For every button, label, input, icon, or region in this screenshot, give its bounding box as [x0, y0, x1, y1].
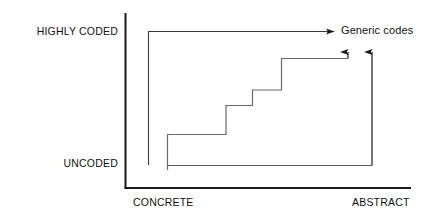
- y-axis-top-label: HIGHLY CODED: [8, 26, 118, 37]
- staircase-line: [168, 59, 349, 171]
- generic-codes-line: [149, 32, 335, 166]
- x-axis-right-label: ABSTRACT: [352, 197, 410, 208]
- x-axis-left-label: CONCRETE: [133, 197, 194, 208]
- y-axis-bottom-label: UNCODED: [8, 158, 118, 169]
- generic-codes-label: Generic codes: [341, 25, 413, 36]
- coding-abstraction-diagram: HIGHLY CODED UNCODED CONCRETE ABSTRACT G…: [0, 0, 434, 219]
